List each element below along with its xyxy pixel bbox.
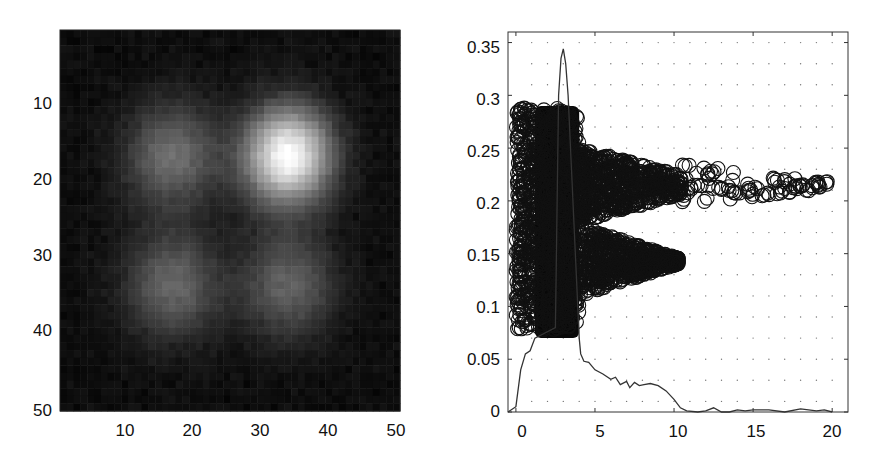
intensity-image-panel: 10 20 30 40 50 10 20 30 40 50 [0, 0, 440, 469]
x-tick-label: 10 [116, 421, 135, 440]
y-tick-label: 0.05 [467, 350, 500, 369]
x-tick-label: 30 [251, 421, 270, 440]
y-tick-label: 0.3 [476, 90, 500, 109]
scatter-panel: 0 0.05 0.1 0.15 0.2 0.25 0.3 0.35 0 5 10… [440, 0, 881, 469]
y-tick-label: 0.25 [467, 142, 500, 161]
y-tick-label: 0.15 [467, 246, 500, 265]
x-tick-label: 20 [823, 422, 842, 441]
intensity-image-plot: 10 20 30 40 50 10 20 30 40 50 [0, 0, 440, 469]
left-y-axis: 10 20 30 40 50 [33, 94, 52, 420]
x-tick-label: 10 [669, 422, 688, 441]
y-tick-label: 20 [33, 170, 52, 189]
x-tick-label: 5 [595, 422, 604, 441]
grayscale-image [60, 30, 401, 412]
density-curve [508, 49, 832, 412]
y-tick-label: 10 [33, 94, 52, 113]
y-tick-label: 30 [33, 246, 52, 265]
left-x-axis: 10 20 30 40 50 [116, 421, 406, 440]
x-tick-label: 50 [387, 421, 406, 440]
scatter-plot: 0 0.05 0.1 0.15 0.2 0.25 0.3 0.35 0 5 10… [440, 0, 881, 469]
right-x-axis: 0 5 10 15 20 [517, 422, 841, 441]
y-tick-label: 50 [33, 401, 52, 420]
right-y-axis: 0 0.05 0.1 0.15 0.2 0.25 0.3 0.35 [467, 38, 500, 421]
y-tick-label: 0.35 [467, 38, 500, 57]
x-tick-label: 40 [319, 421, 338, 440]
y-tick-label: 0.2 [476, 194, 500, 213]
x-tick-label: 20 [183, 421, 202, 440]
y-tick-label: 0.1 [476, 298, 500, 317]
y-tick-label: 40 [33, 321, 52, 340]
y-tick-label: 0 [491, 402, 500, 421]
x-tick-label: 15 [747, 422, 766, 441]
x-tick-label: 0 [517, 422, 526, 441]
